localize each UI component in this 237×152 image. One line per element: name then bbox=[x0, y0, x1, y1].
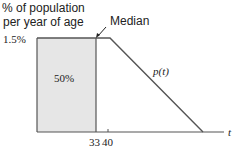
median-label: Median bbox=[110, 14, 149, 28]
x-axis-label: t bbox=[228, 126, 232, 138]
curve-label: p(t) bbox=[152, 65, 169, 78]
shaded-region-label: 50% bbox=[54, 72, 74, 84]
x-tick-label-40: 40 bbox=[102, 136, 114, 148]
y-axis-label-line1: % of population bbox=[2, 1, 85, 15]
y-tick-label: 1.5% bbox=[3, 33, 26, 45]
shaded-region-50-percent bbox=[37, 38, 96, 132]
y-axis-label-line2: per year of age bbox=[3, 15, 84, 29]
population-age-chart: % of population per year of age 1.5% Med… bbox=[0, 0, 237, 152]
x-tick-label-33: 33 bbox=[89, 136, 101, 148]
